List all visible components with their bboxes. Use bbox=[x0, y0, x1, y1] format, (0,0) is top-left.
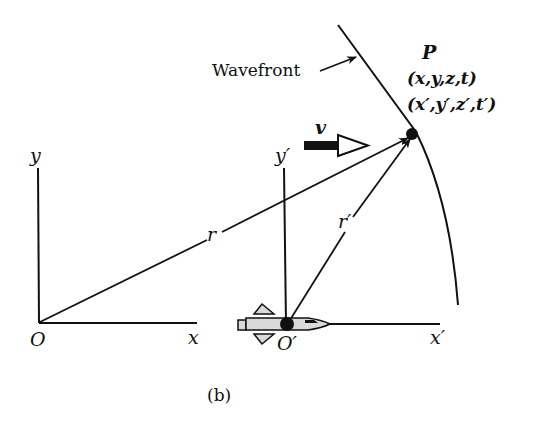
point-p-coords-primed: (x′,y′,z′,t′) bbox=[407, 96, 496, 113]
velocity-arrow-icon bbox=[304, 135, 368, 156]
origin-o-label: O bbox=[30, 330, 46, 349]
velocity-label: v bbox=[315, 118, 326, 137]
wavefront-label: Wavefront bbox=[212, 62, 300, 79]
panel-label: (b) bbox=[207, 387, 231, 404]
frame-s-axes bbox=[38, 168, 197, 323]
y-prime-axis-label: y′ bbox=[275, 146, 290, 165]
relativity-diagram: Wavefront P (x,y,z,t) (x′,y′,z′,t′) v y … bbox=[0, 0, 538, 430]
r-vector bbox=[40, 138, 408, 322]
x-prime-axis-label: x′ bbox=[430, 328, 445, 347]
r-prime-vector-label: r′ bbox=[338, 212, 351, 231]
point-p-dot bbox=[406, 128, 418, 140]
y-axis-label: y bbox=[30, 146, 41, 165]
point-p-coords-unprimed: (x,y,z,t) bbox=[407, 70, 477, 87]
wavefront-pointer-arrow bbox=[320, 57, 356, 71]
origin-o-prime-label: O′ bbox=[277, 334, 297, 353]
x-axis-label: x bbox=[188, 328, 199, 347]
r-vector-label: r bbox=[207, 225, 216, 244]
point-p-label: P bbox=[422, 43, 436, 62]
frame-s-prime-y-axis bbox=[284, 168, 286, 324]
